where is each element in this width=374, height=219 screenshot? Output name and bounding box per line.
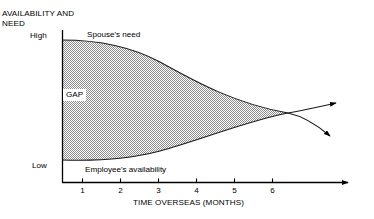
- employee-availability-label: Employee's availability: [85, 165, 166, 175]
- gap-label: GAP: [63, 89, 86, 101]
- x-tick-label: 6: [266, 186, 280, 195]
- y-tick-label-low: Low: [32, 161, 47, 171]
- x-axis-title: TIME OVERSEAS (MONTHS): [133, 198, 244, 208]
- x-tick-label: 3: [152, 186, 166, 195]
- x-tick-label: 4: [190, 186, 204, 195]
- gap-region: [62, 40, 288, 160]
- y-tick-label-high: High: [30, 31, 47, 41]
- spouse-need-label: Spouse's need: [87, 30, 140, 40]
- y-axis-title: AVAILABILITY AND NEED: [2, 9, 74, 28]
- x-tick-label: 1: [76, 186, 90, 195]
- x-tick-label: 2: [114, 186, 128, 195]
- x-tick-label: 5: [228, 186, 242, 195]
- availability-need-gap-chart: [0, 0, 374, 219]
